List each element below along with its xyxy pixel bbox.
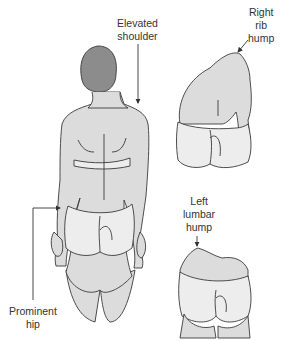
- lumbar-hump-figure: [179, 248, 251, 338]
- rib-hump-figure: [177, 53, 252, 168]
- right-rib-hump-label: Right rib hump: [248, 6, 274, 45]
- label-line: Right: [248, 6, 274, 19]
- label-line: Elevated: [117, 17, 158, 30]
- label-line: hump: [183, 221, 215, 234]
- label-line: Left: [183, 195, 215, 208]
- elevated-shoulder-label: Elevated shoulder: [117, 17, 158, 43]
- rib-hump-pointer: [238, 40, 248, 52]
- left-lumbar-hump-label: Left lumbar hump: [183, 195, 215, 234]
- label-line: rib: [248, 19, 274, 32]
- label-line: hump: [248, 32, 274, 45]
- label-line: Prominent: [9, 305, 57, 318]
- label-line: hip: [9, 318, 57, 331]
- standing-figure: [51, 46, 149, 322]
- label-line: lumbar: [183, 208, 215, 221]
- scoliosis-illustration: [0, 0, 286, 341]
- prominent-hip-label: Prominent hip: [9, 305, 57, 331]
- label-line: shoulder: [117, 30, 158, 43]
